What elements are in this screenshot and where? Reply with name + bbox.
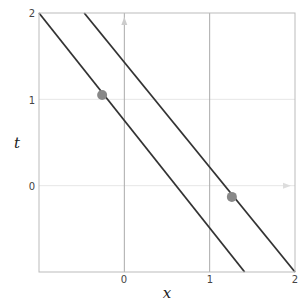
y-tick-2: 2 [29,8,35,19]
grid [39,13,295,272]
line-1 [39,13,245,272]
x-tick-1: 1 [207,274,213,285]
y-axis-label: t [14,134,21,152]
x-axis-label: x [163,284,172,302]
line-2 [84,13,295,272]
spacetime-chart: 0 1 2 0 1 2 x t [0,0,307,306]
series [39,13,295,272]
x-tick-2: 2 [292,274,298,285]
x-tick-0: 0 [121,274,127,285]
x-axis-arrow-icon [283,183,291,189]
event-point-1 [97,90,107,100]
y-tick-0: 0 [29,181,35,192]
event-point-2 [227,192,237,202]
t-axis-arrow-icon [121,17,127,25]
y-tick-1: 1 [29,95,35,106]
plot-frame [39,13,295,272]
